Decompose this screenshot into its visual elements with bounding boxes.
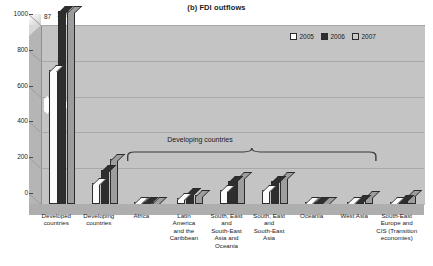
bar-2006-0 (58, 11, 66, 204)
x-axis-label-line: and (203, 219, 251, 226)
x-axis-label-line: Developing (75, 212, 123, 219)
legend-item-2007[interactable]: 2007 (352, 33, 376, 40)
legend: 200520062007 (290, 33, 376, 40)
bar-2006-1 (101, 170, 109, 204)
bar-2005-1 (92, 183, 100, 204)
x-axis-label-line: Africa (117, 212, 165, 219)
legend-label-2007: 2007 (361, 33, 375, 40)
x-axis-label-line: Oceania (203, 242, 251, 249)
legend-label-2006: 2006 (330, 33, 344, 40)
legend-swatch-2005 (290, 33, 297, 40)
bar-2005-4 (220, 190, 228, 204)
bar-2005-2 (134, 202, 142, 204)
x-axis-label-7: West Asia (330, 212, 378, 219)
x-axis-category-labels: DevelopedcountriesDevelopingcountriesAfr… (0, 210, 433, 266)
x-axis-label-line: South, East (203, 212, 251, 219)
legend-item-2005[interactable]: 2005 (290, 33, 314, 40)
x-axis-label-line: Latin (160, 212, 208, 219)
x-axis-label-0: Developedcountries (32, 212, 80, 227)
x-axis-label-line: countries (75, 219, 123, 226)
x-axis-label-line: Developed (32, 212, 80, 219)
bar-2007-2 (152, 202, 160, 204)
bar-2005-8 (390, 202, 398, 205)
legend-swatch-2006 (321, 33, 328, 40)
bar-2007-5 (280, 177, 288, 204)
value-label-87: 87 (44, 13, 51, 20)
x-axis-label-line: West Asia (330, 212, 378, 219)
bar-2005-7 (347, 202, 355, 205)
x-axis-label-2: Africa (117, 212, 165, 219)
group-brace (126, 146, 386, 162)
x-axis-label-line: and the (160, 227, 208, 234)
x-axis-label-6: Oceania (288, 212, 336, 219)
x-axis-label-line: Caribbean (160, 234, 208, 241)
bar-2007-4 (237, 177, 245, 204)
x-axis-label-5: South, EastandSouth-EastAsia (245, 212, 293, 242)
x-axis-label-8: South-EastEurope andCIS (Transitionecono… (373, 212, 421, 242)
x-axis-label-line: economies) (373, 234, 421, 241)
x-axis-label-line: South-East (203, 227, 251, 234)
x-axis-label-3: LatinAmericaand theCaribbean (160, 212, 208, 242)
x-axis-label-line: Asia (245, 234, 293, 241)
bar-2007-0 (67, 11, 75, 204)
bar-2006-2 (143, 202, 151, 204)
x-axis-label-line: CIS (Transition (373, 227, 421, 234)
fdi-outflows-chart: (b) FDI outflows 02004006008001000 87 1 … (0, 0, 433, 266)
bar-2007-3 (195, 195, 203, 204)
legend-swatch-2007 (352, 33, 359, 40)
bar-2005-3 (177, 198, 185, 204)
bar-2005-5 (262, 190, 270, 204)
x-axis-label-4: South, EastandSouth-EastAsia andOceania (203, 212, 251, 249)
x-axis-label-line: America (160, 219, 208, 226)
group-brace-label: Developing countries (167, 136, 232, 143)
legend-label-2005: 2005 (300, 33, 314, 40)
x-axis-label-line: South-East (373, 212, 421, 219)
x-axis-label-line: Oceania (288, 212, 336, 219)
legend-item-2006[interactable]: 2006 (321, 33, 345, 40)
x-axis-label-line: Europe and (373, 219, 421, 226)
x-axis-label-1: Developingcountries (75, 212, 123, 227)
x-axis-label-line: South, East (245, 212, 293, 219)
x-axis-label-line: South-East (245, 227, 293, 234)
x-axis-label-line: countries (32, 219, 80, 226)
x-axis-label-line: and (245, 219, 293, 226)
x-axis-label-line: Asia and (203, 234, 251, 241)
bar-2005-6 (305, 202, 313, 204)
bar-2005-0 (49, 70, 57, 204)
